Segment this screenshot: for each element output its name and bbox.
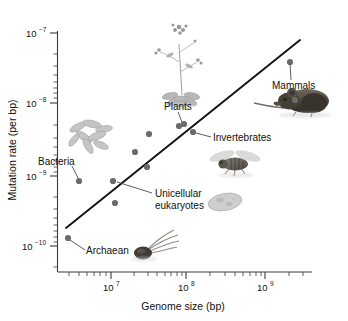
scatter-plot-svg: 10 −7 10 −8 10 −9 10 −10 10 7 10 8 10 9 … [0, 0, 348, 321]
y-tick-label-1e-9: 10 [26, 171, 37, 182]
mutation-rate-vs-genome-size-figure: 10 −7 10 −8 10 −9 10 −10 10 7 10 8 10 9 … [0, 0, 348, 321]
label-unicellular-line2: eukaryotes [155, 200, 204, 211]
x-axis-title: Genome size (bp) [141, 300, 224, 312]
y-tick-label-1e-8: 10 [26, 98, 37, 109]
label-unicellular-line1: Unicellular [155, 188, 202, 199]
y-axis-title: Mutation rate (per bp) [6, 100, 18, 201]
label-archaean: Archaean [86, 245, 129, 256]
x-tick-label-1e9: 10 [257, 282, 268, 293]
data-point-unicellular-4 [146, 131, 152, 137]
y-tick-exp-1e-10: −10 [35, 239, 46, 246]
label-invertebrates: Invertebrates [213, 132, 271, 143]
data-point-unicellular-1 [110, 178, 116, 184]
x-tick-exp-1e8: 8 [191, 280, 195, 287]
data-point-unicellular-3 [144, 164, 150, 170]
label-bacteria: Bacteria [38, 156, 75, 167]
x-tick-label-1e7: 10 [103, 282, 114, 293]
y-tick-exp-1e-8: −8 [39, 96, 47, 103]
y-tick-label-1e-7: 10 [26, 28, 37, 39]
x-tick-exp-1e7: 7 [116, 280, 120, 287]
data-point-bacteria-1 [76, 178, 82, 184]
x-tick-label-1e8: 10 [178, 282, 189, 293]
label-plants: Plants [164, 101, 192, 112]
label-mammals: Mammals [272, 80, 315, 91]
y-tick-label-1e-10: 10 [22, 241, 33, 252]
y-tick-exp-1e-9: −9 [39, 169, 47, 176]
data-point-bacteria-2 [112, 200, 118, 206]
x-tick-exp-1e9: 9 [270, 280, 274, 287]
data-point-unicellular-2 [132, 149, 138, 155]
data-point-mammals-2 [292, 97, 298, 103]
data-point-invertebrates-1 [190, 129, 196, 135]
y-tick-exp-1e-7: −7 [39, 26, 47, 33]
